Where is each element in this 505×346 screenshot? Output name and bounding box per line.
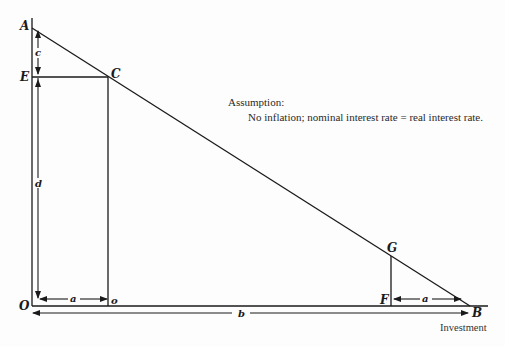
label-point-f: F xyxy=(379,293,390,307)
label-dim-c: c xyxy=(35,47,41,58)
label-point-o: O xyxy=(19,299,30,313)
line-ab xyxy=(32,28,470,306)
label-dim-a-right: a xyxy=(422,293,428,304)
x-axis-label: Investment xyxy=(440,322,487,333)
label-point-g: G xyxy=(387,241,397,255)
label-point-e: E xyxy=(19,70,30,84)
label-dim-b: b xyxy=(238,308,245,319)
annotation-title: Assumption: xyxy=(228,96,284,108)
label-point-b: B xyxy=(471,306,482,320)
diagram-svg: A E C O o F G B c d a a b Assumption: No… xyxy=(0,0,505,346)
annotation-body: No inflation; nominal interest rate = re… xyxy=(248,111,483,123)
label-dim-a-left: a xyxy=(70,293,76,304)
label-dim-d: d xyxy=(35,178,42,189)
investment-diagram: A E C O o F G B c d a a b Assumption: No… xyxy=(0,0,505,346)
label-point-c: C xyxy=(111,67,121,81)
label-point-a: A xyxy=(19,19,29,33)
label-point-d: o xyxy=(111,295,118,306)
